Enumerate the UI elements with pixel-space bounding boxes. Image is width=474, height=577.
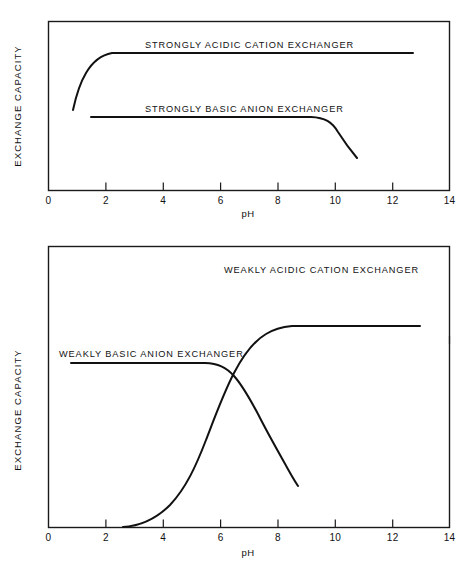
bottom-panel-yaxis-title: EXCHANGE CAPACITY — [12, 349, 23, 470]
bottom-xticklabel-6: 6 — [218, 532, 224, 543]
bottom-panel-xaxis-title: pH — [242, 547, 255, 558]
curve-strongly-basic-anion-exchanger — [91, 117, 357, 158]
bottom-panel-xticklabels: 0 2 4 6 8 10 12 14 — [46, 532, 456, 543]
top-xticklabel-14: 14 — [444, 195, 456, 206]
annotation-weakly-basic-anion-exchanger: WEAKLY BASIC ANION EXCHANGER — [59, 349, 244, 359]
bottom-panel-xticks — [106, 336, 450, 528]
exchange-capacity-figure: 0 2 4 6 8 10 12 14 pH EXCHANGE CAPACITY … — [0, 0, 474, 577]
top-xticklabel-2: 2 — [103, 195, 109, 206]
annotation-strongly-acidic-cation-exchanger: STRONGLY ACIDIC CATION EXCHANGER — [145, 40, 354, 50]
top-xticklabel-8: 8 — [275, 195, 281, 206]
bottom-xticklabel-14: 14 — [444, 532, 456, 543]
top-panel-yaxis-title: EXCHANGE CAPACITY — [12, 45, 23, 166]
bottom-panel-plot-frame — [49, 247, 450, 528]
bottom-xticklabel-10: 10 — [329, 532, 341, 543]
annotation-strongly-basic-anion-exchanger: STRONGLY BASIC ANION EXCHANGER — [145, 104, 344, 114]
bottom-xticklabel-12: 12 — [387, 532, 399, 543]
bottom-panel: 0 2 4 6 8 10 12 14 pH EXCHANGE CAPACITY … — [12, 247, 455, 559]
top-xticklabel-6: 6 — [218, 195, 224, 206]
top-panel-xticklabels: 0 2 4 6 8 10 12 14 — [46, 195, 456, 206]
top-xticklabel-12: 12 — [387, 195, 399, 206]
top-panel: 0 2 4 6 8 10 12 14 pH EXCHANGE CAPACITY … — [12, 22, 455, 220]
top-xticklabel-10: 10 — [329, 195, 341, 206]
curve-weakly-basic-anion-exchanger — [71, 363, 298, 486]
top-xticklabel-4: 4 — [160, 195, 166, 206]
top-panel-xticks — [106, 183, 393, 191]
top-panel-xaxis-title: pH — [242, 208, 255, 219]
figure-root: 0 2 4 6 8 10 12 14 pH EXCHANGE CAPACITY … — [0, 0, 474, 577]
curve-strongly-acidic-cation-exchanger — [73, 53, 413, 110]
bottom-xticklabel-0: 0 — [46, 532, 52, 543]
top-xticklabel-0: 0 — [46, 195, 52, 206]
annotation-weakly-acidic-cation-exchanger: WEAKLY ACIDIC CATION EXCHANGER — [224, 265, 419, 275]
bottom-xticklabel-8: 8 — [275, 532, 281, 543]
bottom-xticklabel-4: 4 — [160, 532, 166, 543]
bottom-xticklabel-2: 2 — [103, 532, 109, 543]
